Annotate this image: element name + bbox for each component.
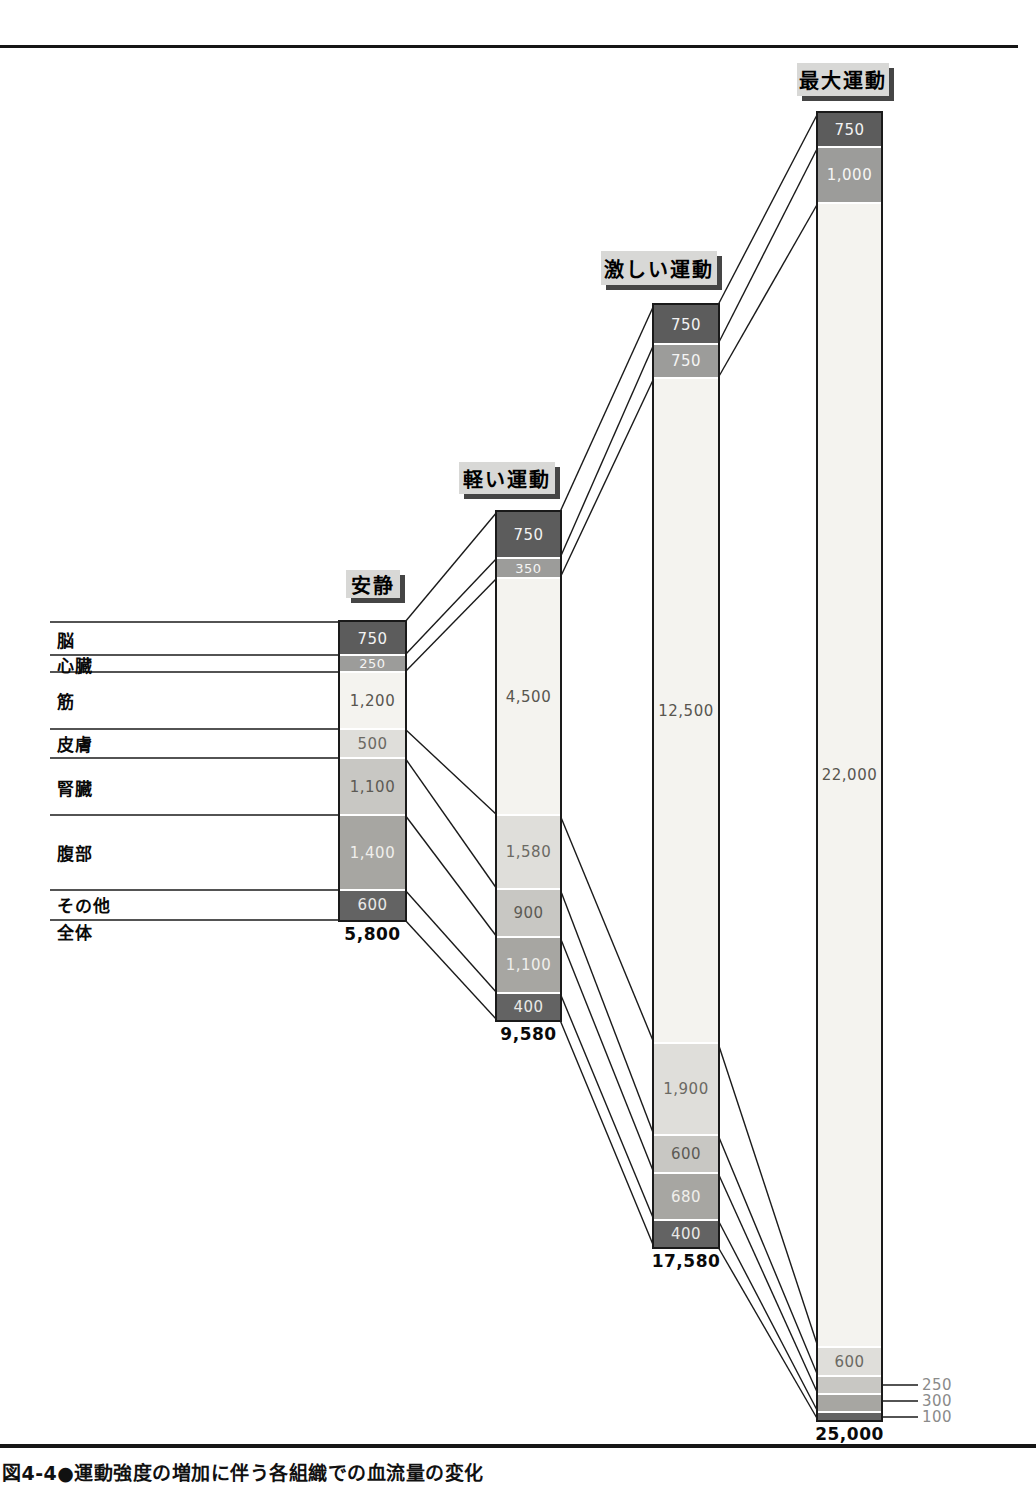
column-label-intense-exercise: 激しい運動 bbox=[601, 251, 717, 285]
connector-line-rest-4 bbox=[405, 758, 497, 889]
connector-line-intense-exercise-3 bbox=[718, 1043, 818, 1347]
organ-label-heart: 心臓 bbox=[57, 652, 93, 677]
segment-separator bbox=[340, 889, 405, 891]
segment-heart-light-exercise: 350 bbox=[497, 558, 560, 578]
segment-heart-rest: 250 bbox=[340, 655, 405, 672]
segment-separator bbox=[654, 1219, 718, 1221]
organ-label-others: その他 bbox=[57, 892, 111, 917]
segment-separator bbox=[818, 146, 881, 148]
organ-label-skin: 皮膚 bbox=[57, 731, 93, 756]
column-light-exercise: 7503504,5001,5809001,100400 bbox=[497, 512, 560, 1020]
segment-abdomen-intense-exercise: 680 bbox=[654, 1173, 718, 1220]
organ-label-brain: 脳 bbox=[57, 627, 75, 652]
connector-line-light-exercise-3 bbox=[560, 815, 654, 1043]
segment-separator bbox=[818, 1411, 881, 1413]
segment-kidney-rest: 1,100 bbox=[340, 758, 405, 815]
segment-separator bbox=[340, 728, 405, 730]
segment-separator bbox=[497, 936, 560, 938]
segment-muscle-light-exercise: 4,500 bbox=[497, 578, 560, 815]
segment-separator bbox=[497, 888, 560, 890]
segment-separator bbox=[340, 814, 405, 816]
connector-line-intense-exercise-5 bbox=[718, 1173, 818, 1394]
segment-separator bbox=[340, 671, 405, 673]
column-label-max-exercise: 最大運動 bbox=[797, 63, 889, 96]
figure-caption: 図4-4●運動強度の増加に伴う各組織での血流量の変化 bbox=[2, 1458, 484, 1485]
segment-separator bbox=[340, 654, 405, 656]
connector-line-intense-exercise-6 bbox=[718, 1220, 818, 1412]
connector-line-rest-5 bbox=[405, 815, 497, 937]
total-intense-exercise: 17,580 bbox=[634, 1251, 738, 1271]
segment-muscle-rest: 1,200 bbox=[340, 672, 405, 729]
segment-separator bbox=[818, 1375, 881, 1377]
segment-skin-light-exercise: 1,580 bbox=[497, 815, 560, 889]
segment-brain-max-exercise: 750 bbox=[818, 113, 881, 147]
segment-separator bbox=[654, 377, 718, 379]
column-label-light-exercise: 軽い運動 bbox=[459, 462, 555, 494]
segment-others-rest: 600 bbox=[340, 890, 405, 920]
segment-separator bbox=[654, 1042, 718, 1044]
column-label-rest: 安静 bbox=[346, 570, 400, 598]
segment-kidney-max-exercise bbox=[818, 1376, 881, 1394]
connector-line-rest-2 bbox=[405, 578, 497, 672]
segment-separator bbox=[654, 343, 718, 345]
segment-skin-max-exercise: 600 bbox=[818, 1347, 881, 1376]
segment-separator bbox=[497, 814, 560, 816]
segment-muscle-max-exercise: 22,000 bbox=[818, 203, 881, 1347]
segment-skin-rest: 500 bbox=[340, 729, 405, 758]
segment-brain-intense-exercise: 750 bbox=[654, 305, 718, 344]
segment-kidney-intense-exercise: 600 bbox=[654, 1135, 718, 1173]
connector-line-rest-3 bbox=[405, 729, 497, 815]
total-light-exercise: 9,580 bbox=[477, 1024, 580, 1044]
total-rest: 5,800 bbox=[320, 924, 425, 944]
segment-brain-rest: 750 bbox=[340, 622, 405, 655]
segment-separator bbox=[340, 757, 405, 759]
segment-heart-intense-exercise: 750 bbox=[654, 344, 718, 378]
segment-separator bbox=[654, 1172, 718, 1174]
segment-separator bbox=[818, 1393, 881, 1395]
connector-line-intense-exercise-7 bbox=[718, 1247, 818, 1420]
segment-kidney-light-exercise: 900 bbox=[497, 889, 560, 937]
connector-line-light-exercise-1 bbox=[560, 344, 654, 558]
column-intense-exercise: 75075012,5001,900600680400 bbox=[654, 305, 718, 1247]
segment-separator bbox=[654, 1134, 718, 1136]
segment-abdomen-max-exercise bbox=[818, 1394, 881, 1412]
segment-separator bbox=[497, 992, 560, 994]
organ-label-kidney: 腎臓 bbox=[57, 775, 93, 800]
total-max-exercise: 25,000 bbox=[798, 1424, 901, 1444]
connector-line-light-exercise-4 bbox=[560, 889, 654, 1135]
segment-separator bbox=[818, 1346, 881, 1348]
segment-muscle-intense-exercise: 12,500 bbox=[654, 378, 718, 1043]
segment-skin-intense-exercise: 1,900 bbox=[654, 1043, 718, 1135]
segment-brain-light-exercise: 750 bbox=[497, 512, 560, 558]
column-rest: 7502501,2005001,1001,400600 bbox=[340, 622, 405, 920]
connector-line-intense-exercise-2 bbox=[718, 203, 818, 378]
segment-others-intense-exercise: 400 bbox=[654, 1220, 718, 1247]
segment-others-light-exercise: 400 bbox=[497, 993, 560, 1020]
connector-line-intense-exercise-0 bbox=[718, 113, 818, 305]
outside-label-others-max-exercise: 100 bbox=[922, 1408, 952, 1426]
segment-separator bbox=[818, 202, 881, 204]
connector-line-intense-exercise-1 bbox=[718, 147, 818, 344]
segment-separator bbox=[497, 557, 560, 559]
segment-abdomen-light-exercise: 1,100 bbox=[497, 937, 560, 993]
segment-others-max-exercise bbox=[818, 1412, 881, 1420]
segment-abdomen-rest: 1,400 bbox=[340, 815, 405, 890]
column-max-exercise: 7501,00022,000600 bbox=[818, 113, 881, 1420]
organ-label-total: 全体 bbox=[57, 919, 93, 944]
segment-heart-max-exercise: 1,000 bbox=[818, 147, 881, 203]
segment-separator bbox=[497, 577, 560, 579]
organ-label-abdomen: 腹部 bbox=[57, 840, 93, 865]
organ-label-muscle: 筋 bbox=[57, 688, 75, 713]
